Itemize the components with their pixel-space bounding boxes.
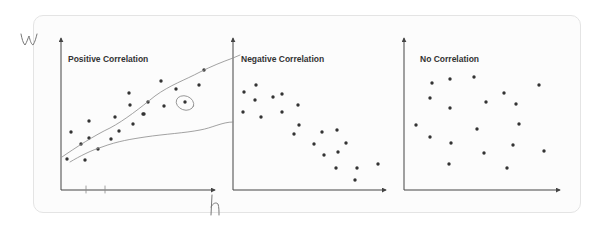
scatter-point [448, 106, 451, 109]
scatter-point [280, 110, 283, 113]
scatter-point [353, 178, 356, 181]
scatter-point [482, 151, 485, 154]
scatter-point [174, 87, 177, 90]
scatter-point [197, 83, 200, 86]
panel-no-correlation: No Correlation [404, 38, 560, 190]
scatter-point [296, 103, 299, 106]
scatter-point [280, 92, 283, 95]
scatter-point [344, 141, 347, 144]
scatter-point [448, 77, 451, 80]
scatter-point [271, 95, 274, 98]
scatter-point [87, 119, 90, 122]
scatter-point [517, 122, 520, 125]
scatter-point [355, 166, 358, 169]
scatter-point [514, 102, 517, 105]
scatter-point [127, 91, 130, 94]
scatter-point [449, 141, 452, 144]
scatter-point [542, 149, 545, 152]
scatter-point [109, 137, 112, 140]
scatter-point [253, 98, 256, 101]
upper-trend-line [62, 55, 240, 157]
panel-title: Negative Correlation [241, 54, 324, 64]
scatter-point [414, 123, 417, 126]
scatter-point [447, 162, 450, 165]
panel-positive-correlation: Positive Correlation [61, 38, 215, 190]
scatter-point [428, 96, 431, 99]
scatter-point [430, 81, 433, 84]
scatter-point [292, 132, 295, 135]
scatter-point [183, 100, 186, 103]
x-axis-letter-h [211, 195, 219, 215]
scatter-point [131, 122, 134, 125]
scatter-point [428, 135, 431, 138]
scatter-point [502, 91, 505, 94]
scatter-point [69, 130, 72, 133]
scatter-point [259, 115, 262, 118]
panel-negative-correlation: Negative Correlation [233, 38, 386, 190]
scatter-points [241, 83, 379, 181]
scatter-point [334, 166, 337, 169]
scatter-point [113, 115, 116, 118]
scatter-point [320, 130, 323, 133]
scatter-point [242, 90, 245, 93]
scatter-point [322, 153, 325, 156]
panel-title: No Correlation [420, 54, 479, 64]
panel-title: Positive Correlation [68, 54, 148, 64]
scatter-point [83, 158, 86, 161]
lower-trend-line [70, 122, 233, 162]
scatter-point [162, 104, 165, 107]
scatter-point [254, 83, 257, 86]
scatter-point [241, 110, 244, 113]
scatter-point [65, 157, 68, 160]
y-axis-letter-w [21, 34, 37, 45]
scatter-point [335, 128, 338, 131]
scatter-points [65, 68, 205, 161]
scatter-point [159, 79, 162, 82]
scatter-point [505, 166, 508, 169]
scatter-point [484, 100, 487, 103]
scatter-point [142, 112, 145, 115]
scatter-point [376, 162, 379, 165]
scatter-point [117, 129, 120, 132]
scatter-points [414, 75, 545, 169]
correlation-diagram: Positive Correlation Negative Correlatio… [0, 0, 604, 226]
scatter-point [312, 142, 315, 145]
scatter-point [475, 127, 478, 130]
scatter-point [336, 150, 339, 153]
scatter-point [128, 103, 131, 106]
scatter-point [511, 143, 514, 146]
scatter-point [472, 75, 475, 78]
scatter-point [297, 123, 300, 126]
scatter-point [537, 83, 540, 86]
